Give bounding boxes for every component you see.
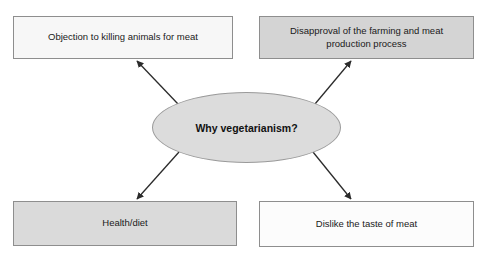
central-node-ellipse[interactable]: Why vegetarianism? — [152, 92, 341, 163]
node-label-dislike: Dislike the taste of meat — [316, 218, 417, 231]
central-node-label: Why vegetarianism? — [195, 122, 297, 134]
node-box-health[interactable]: Health/diet — [13, 201, 237, 246]
diagram-canvas: Objection to killing animals for meat Di… — [0, 0, 488, 259]
arrow-center-to-objection — [137, 61, 178, 104]
node-label-objection: Objection to killing animals for meat — [48, 31, 198, 44]
node-box-disapproval[interactable]: Disapproval of the farming and meat prod… — [259, 16, 474, 59]
arrow-center-to-health — [137, 152, 179, 199]
arrow-center-to-disapproval — [315, 61, 351, 104]
arrow-center-to-dislike — [313, 152, 351, 199]
node-box-dislike[interactable]: Dislike the taste of meat — [259, 201, 474, 247]
node-box-objection[interactable]: Objection to killing animals for meat — [13, 16, 233, 59]
node-label-health: Health/diet — [102, 217, 147, 230]
node-label-disapproval: Disapproval of the farming and meat prod… — [290, 25, 443, 51]
